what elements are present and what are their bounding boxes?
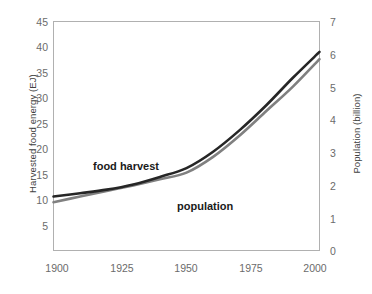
plot-area <box>0 0 372 294</box>
line-population <box>54 52 320 197</box>
line-food-harvest <box>54 59 320 202</box>
chart-figure: Harvested food energy (EJ) Population (b… <box>0 0 372 294</box>
plot-border <box>54 22 320 251</box>
